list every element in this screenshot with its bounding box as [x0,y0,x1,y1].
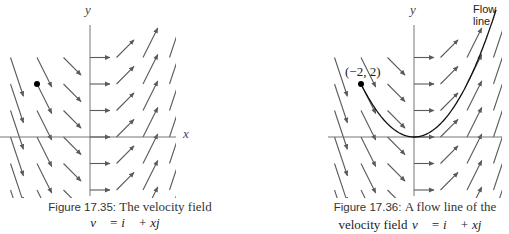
caption-text-2: velocity field [338,217,407,232]
flow-line-label: Flow line [473,3,509,27]
caption-label: Figure 17.36: [334,201,402,213]
figure-17-36: y Flow line (−2, 2) Figure 17.36: A flow… [0,0,509,234]
point-label: (−2, 2) [345,64,381,80]
y-axis-label: y [410,2,416,18]
marked-point [358,81,364,87]
caption-equation: v⃗ = i⃗ + xj⃗ [412,217,492,232]
vector-field-plot-17-36 [0,0,509,200]
caption-text: A flow line of the [405,199,497,214]
figure-caption-17-36: Figure 17.36: A flow line of the velocit… [330,200,500,233]
flow-line-curve [361,10,496,137]
